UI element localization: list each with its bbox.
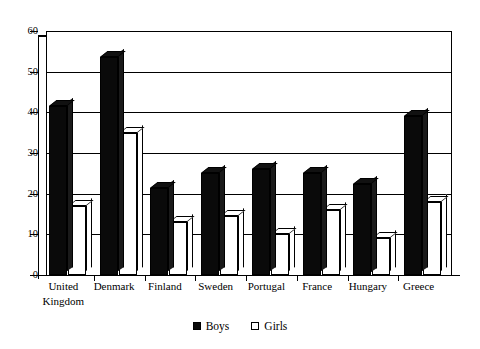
x-axis-label-line: Sweden bbox=[190, 279, 241, 294]
bar-group bbox=[150, 31, 193, 275]
x-axis-label: Denmark bbox=[89, 279, 140, 294]
x-axis-label: France bbox=[292, 279, 343, 294]
x-axis-label: Finland bbox=[140, 279, 191, 294]
legend-item-boys: Boys bbox=[193, 320, 230, 332]
bar-group bbox=[353, 31, 396, 275]
x-axis-label-line: Greece bbox=[393, 279, 444, 294]
bar-face bbox=[100, 57, 118, 275]
x-axis-label: Portugal bbox=[241, 279, 292, 294]
x-axis-label-line: Kingdom bbox=[38, 294, 89, 309]
bar-face bbox=[201, 173, 219, 275]
bar-group bbox=[100, 31, 143, 275]
bar-boys-hungary bbox=[353, 184, 371, 276]
x-axis-label: Greece bbox=[393, 279, 444, 294]
x-axis-label-line: Finland bbox=[140, 279, 191, 294]
bar-face bbox=[404, 116, 422, 275]
bar-boys-finland bbox=[150, 188, 168, 275]
bar-side bbox=[118, 50, 124, 271]
bar-group bbox=[252, 31, 295, 275]
x-axis-label-line: United bbox=[38, 279, 89, 294]
x-axis-label: Hungary bbox=[343, 279, 394, 294]
bar-boys-portugal bbox=[252, 169, 270, 275]
bar-boys-greece bbox=[404, 116, 422, 275]
legend-item-girls: Girls bbox=[251, 320, 287, 332]
filled-square-icon bbox=[193, 322, 201, 330]
bar-boys-sweden bbox=[201, 173, 219, 275]
y-tick-mark bbox=[30, 112, 38, 113]
bar-side bbox=[270, 161, 276, 271]
y-tick-mark bbox=[30, 194, 38, 195]
y-tick-mark bbox=[30, 153, 38, 154]
bar-boys-denmark bbox=[100, 57, 118, 275]
bar-boys-united-kingdom bbox=[49, 106, 67, 275]
x-axis-label: UnitedKingdom bbox=[38, 279, 89, 309]
x-axis-label: Sweden bbox=[190, 279, 241, 294]
x-axis-label-line: France bbox=[292, 279, 343, 294]
bar-group bbox=[404, 31, 447, 275]
bar-face bbox=[49, 106, 67, 275]
bar-face bbox=[303, 173, 321, 275]
bar-side bbox=[321, 165, 327, 271]
bar-group bbox=[303, 31, 346, 275]
bar-side bbox=[238, 208, 244, 271]
bar-side bbox=[441, 194, 447, 271]
bar-chart: 0102030405060 UnitedKingdomDenmarkFinlan… bbox=[0, 0, 480, 349]
y-tick-mark bbox=[30, 72, 38, 73]
hollow-square-icon bbox=[251, 322, 259, 330]
bar-side bbox=[86, 198, 92, 271]
x-axis-label-line: Portugal bbox=[241, 279, 292, 294]
y-tick-mark bbox=[30, 234, 38, 235]
bar-groups bbox=[46, 31, 452, 275]
bar-side bbox=[137, 125, 143, 271]
x-axis-label-line: Hungary bbox=[343, 279, 394, 294]
bar-side bbox=[67, 98, 73, 271]
bar-side bbox=[219, 165, 225, 271]
legend-label: Boys bbox=[206, 320, 230, 332]
bar-group bbox=[201, 31, 244, 275]
bar-side bbox=[371, 176, 377, 271]
legend-label: Girls bbox=[264, 320, 287, 332]
bar-face bbox=[150, 188, 168, 275]
bar-group bbox=[49, 31, 92, 275]
x-axis-label-line: Denmark bbox=[89, 279, 140, 294]
bar-side bbox=[187, 214, 193, 271]
y-tick-mark bbox=[30, 275, 38, 276]
bar-boys-france bbox=[303, 173, 321, 275]
y-tick-mark bbox=[30, 31, 38, 32]
bar-side bbox=[340, 202, 346, 271]
bar-face bbox=[252, 169, 270, 275]
chart-legend: BoysGirls bbox=[0, 320, 480, 332]
bar-side bbox=[422, 109, 428, 271]
bar-side bbox=[168, 180, 174, 271]
bar-face bbox=[353, 184, 371, 276]
